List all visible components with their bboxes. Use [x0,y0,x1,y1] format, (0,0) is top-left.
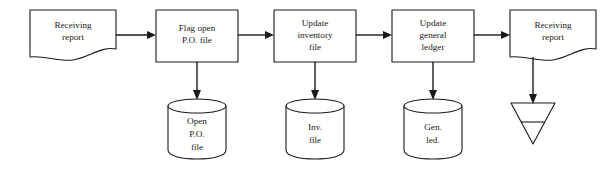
node-proc-update-inventory[interactable]: Update inventory file [274,10,356,62]
store-label-line-3: file [191,142,203,152]
node-label-line-2: inventory [297,30,333,40]
conn-flag-to-open-po-store [193,62,201,100]
arrowhead-icon [265,31,274,39]
node-label-line-1: Flag open [179,23,216,33]
node-label-line-2: report [542,32,564,42]
node-label-line-3: file [309,42,321,52]
node-doc-receiving-report-out[interactable]: Receiving report [510,10,596,60]
node-proc-update-general-ledger[interactable]: Update general ledger [392,10,474,62]
cylinder-top [168,99,226,113]
cylinder-top [404,99,462,113]
conn-inventory-to-ledger [356,31,392,39]
conn-doc-in-to-flag [116,31,156,39]
store-inv-file[interactable]: Inv. file [286,99,344,159]
node-label-line-3: ledger [422,42,445,52]
conn-inventory-to-inv-store [311,62,319,100]
store-label-line-1: Inv. [308,122,322,132]
store-label-line-1: Gen. [424,122,442,132]
triangle-shape [511,103,555,144]
cylinder-body [286,106,344,159]
node-label-line-1: Update [302,18,329,28]
store-open-po-file[interactable]: Open P.O. file [168,99,226,159]
node-label-line-1: Receiving [54,20,92,30]
cylinder-top [286,99,344,113]
arrowhead-icon [147,31,156,39]
flowchart-canvas: Receiving report Flag open P.O. file Upd… [0,0,608,169]
conn-doc-out-to-triangle [529,57,537,104]
node-label-line-2: general [419,30,446,40]
node-label-line-2: P.O. file [182,35,212,45]
node-label-line-1: Update [420,18,447,28]
conn-flag-to-inventory [238,31,274,39]
flowchart-diagram: Receiving report Flag open P.O. file Upd… [0,0,608,169]
cylinder-body [404,106,462,159]
arrowhead-icon [383,31,392,39]
store-label-line-1: Open [187,116,207,126]
node-doc-receiving-report-in[interactable]: Receiving report [30,10,116,60]
file-triangle[interactable] [511,103,555,144]
store-label-line-2: file [309,135,321,145]
conn-ledger-to-gen-store [429,62,437,100]
node-label-line-1: Receiving [534,20,572,30]
node-proc-flag-open-po[interactable]: Flag open P.O. file [156,10,238,62]
arrowhead-icon [501,31,510,39]
conn-ledger-to-doc-out [474,31,510,39]
store-gen-led[interactable]: Gen. led. [404,99,462,159]
node-label-line-2: report [62,32,84,42]
store-label-line-2: led. [426,135,440,145]
store-label-line-2: P.O. [189,129,204,139]
